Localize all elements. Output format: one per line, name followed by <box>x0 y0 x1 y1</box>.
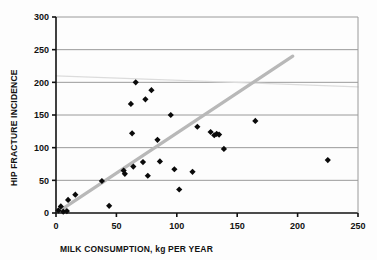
x-axis-title: MILK CONSUMPTION, kg PER YEAR <box>60 244 213 254</box>
x-tick-label: 150 <box>230 221 245 231</box>
scatter-plot: 050100150200250300 050100150200250 HIP F… <box>0 0 377 260</box>
x-tick-label: 250 <box>350 221 365 231</box>
x-tick-label: 100 <box>169 221 184 231</box>
y-axis-title: HIP FRACTURE INCIDENCE <box>9 69 19 186</box>
y-tick-label: 200 <box>34 78 49 88</box>
y-tick-label: 300 <box>34 12 49 22</box>
x-tick-label: 50 <box>111 221 121 231</box>
x-tick-label: 0 <box>53 221 58 231</box>
y-tick-label: 50 <box>39 176 49 186</box>
y-tick-label: 150 <box>34 110 49 120</box>
chart-figure: 050100150200250300 050100150200250 HIP F… <box>0 0 377 260</box>
x-tick-label: 200 <box>290 221 305 231</box>
y-tick-label: 100 <box>34 143 49 153</box>
y-tick-label: 0 <box>44 208 49 218</box>
y-tick-label: 250 <box>34 45 49 55</box>
